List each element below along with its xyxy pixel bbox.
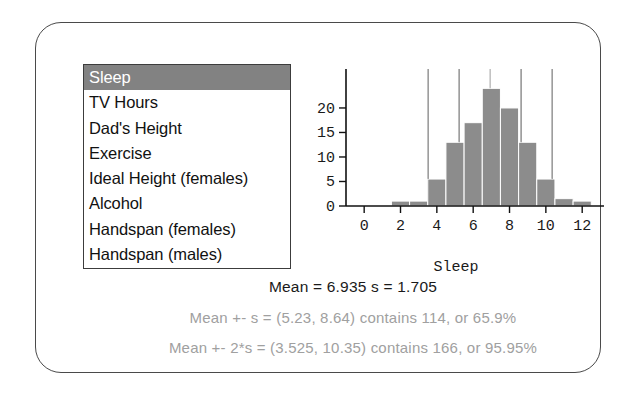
stat-line-one-sd: Mean +- s = (5.23, 8.64) contains 114, o… <box>83 309 623 326</box>
list-item[interactable]: Handspan (males) <box>84 242 290 267</box>
y-tick-label: 5 <box>326 174 335 191</box>
variable-list-box[interactable]: SleepTV HoursDad's HeightExerciseIdeal H… <box>83 64 291 269</box>
histogram-bars-group <box>391 69 591 206</box>
stats-applet-panel: SleepTV HoursDad's HeightExerciseIdeal H… <box>35 22 601 373</box>
y-tick-labels-group: 05101520 <box>317 101 335 216</box>
histogram-bar <box>464 123 482 206</box>
histogram-chart: 024681012 05101520 Sleep <box>306 63 606 278</box>
x-tick-label: 10 <box>537 218 555 235</box>
histogram-bar <box>537 179 555 206</box>
list-item[interactable]: Alcohol <box>84 191 290 216</box>
list-item[interactable]: Exercise <box>84 141 290 166</box>
histogram-bar <box>500 108 518 206</box>
histogram-svg: 024681012 05101520 Sleep <box>306 63 606 278</box>
histogram-bar <box>482 88 500 206</box>
x-tick-labels-group: 024681012 <box>360 218 592 235</box>
x-tick-label: 2 <box>396 218 405 235</box>
y-tick-label: 10 <box>317 150 335 167</box>
y-tick-label: 20 <box>317 101 335 118</box>
list-item[interactable]: TV Hours <box>84 90 290 115</box>
list-item[interactable]: Ideal Height (females) <box>84 166 290 191</box>
stat-line-mean-sd: Mean = 6.935 s = 1.705 <box>83 278 623 296</box>
list-item[interactable]: Dad's Height <box>84 116 290 141</box>
list-item[interactable]: Sleep <box>84 65 290 90</box>
x-axis-label: Sleep <box>433 259 478 276</box>
x-tick-label: 4 <box>432 218 441 235</box>
histogram-bar <box>446 142 464 206</box>
x-tick-label: 6 <box>469 218 478 235</box>
stat-line-two-sd: Mean +- 2*s = (3.525, 10.35) contains 16… <box>83 339 623 356</box>
x-tick-label: 8 <box>505 218 514 235</box>
histogram-bar <box>555 199 573 206</box>
y-tick-label: 0 <box>326 199 335 216</box>
histogram-bar <box>519 142 537 206</box>
x-tick-label: 0 <box>360 218 369 235</box>
list-item[interactable]: Handspan (females) <box>84 217 290 242</box>
statistics-summary: Mean = 6.935 s = 1.705 Mean +- s = (5.23… <box>83 278 623 369</box>
histogram-bar <box>428 179 446 206</box>
y-tick-label: 15 <box>317 125 335 142</box>
x-tick-label: 12 <box>573 218 591 235</box>
